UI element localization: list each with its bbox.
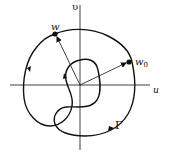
diagram-graphics — [0, 0, 172, 154]
direction-arrow-left — [27, 66, 31, 72]
vector-w0 — [80, 63, 126, 85]
point-w0 — [126, 59, 131, 64]
w0-label-subscript: 0 — [144, 61, 148, 69]
w0-label: w0 — [135, 57, 148, 69]
point-w — [52, 31, 57, 36]
gamma-label: Γ — [115, 120, 123, 131]
u-axis-label: u — [153, 86, 159, 95]
w-label: w — [51, 22, 60, 32]
v-axis-label: υ — [72, 2, 78, 12]
complex-plane-diagram: υ u w w0 Γ — [0, 0, 172, 154]
w0-label-base: w — [135, 56, 144, 67]
